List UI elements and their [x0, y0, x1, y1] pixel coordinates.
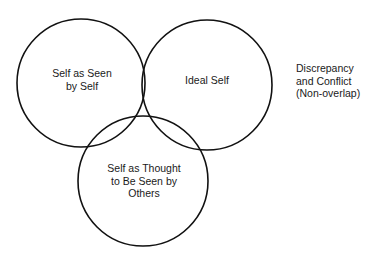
label-line: Self as Thought [107, 162, 180, 175]
label-self-as-thought-seen-by-others: Self as Thought to Be Seen by Others [107, 162, 180, 200]
label-line: to Be Seen by [107, 175, 180, 188]
label-self-as-seen-by-self: Self as Seen by Self [52, 67, 112, 92]
annotation-line: (Non-overlap) [296, 87, 360, 100]
annotation-line: Discrepancy [296, 62, 360, 75]
annotation-discrepancy: Discrepancy and Conflict (Non-overlap) [296, 62, 360, 100]
label-line: Others [107, 187, 180, 200]
label-line: by Self [52, 80, 112, 93]
label-ideal-self: Ideal Self [185, 74, 229, 87]
annotation-line: and Conflict [296, 75, 360, 88]
label-line: Self as Seen [52, 67, 112, 80]
label-line: Ideal Self [185, 74, 229, 87]
venn-diagram [0, 0, 377, 261]
